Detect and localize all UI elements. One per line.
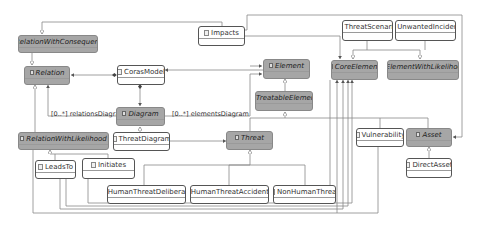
class-icon bbox=[406, 162, 410, 168]
class-name: UnwantedIncident bbox=[397, 23, 456, 31]
class-icon bbox=[113, 136, 117, 142]
elements-diagram-label: [0..*] elementsDiagram bbox=[172, 110, 249, 118]
class-name: ThreatScenario bbox=[344, 23, 393, 31]
class-name: CorasModel bbox=[124, 68, 165, 76]
class-name: RelationWithConsequence bbox=[18, 38, 98, 46]
class-name: RelationWithLikelihood bbox=[26, 135, 106, 143]
class-threat[interactable]: Threat bbox=[226, 131, 273, 150]
class-name: Threat bbox=[241, 134, 264, 142]
class-leads-to[interactable]: LeadsTo bbox=[35, 160, 76, 179]
class-name: ElementWithLikelihood bbox=[387, 63, 459, 71]
class-relation-with-likelihood[interactable]: RelationWithLikelihood bbox=[18, 132, 109, 150]
class-name: NonHumanThreat bbox=[277, 188, 336, 196]
class-icon bbox=[38, 164, 43, 170]
class-relation[interactable]: Relation bbox=[24, 66, 70, 85]
class-name: Vulnerability bbox=[362, 131, 404, 139]
class-name: HumanThreatDeliberate bbox=[108, 188, 186, 196]
class-icon bbox=[204, 30, 209, 36]
class-non-human-threat[interactable]: NonHumanThreat bbox=[273, 185, 336, 204]
class-icon bbox=[273, 189, 275, 195]
class-diagram-canvas: [0..*] relationsDiagram [0..*] elementsD… bbox=[0, 0, 478, 227]
class-name: CoreElement bbox=[335, 63, 378, 71]
abstract-class-icon bbox=[235, 135, 239, 140]
class-core-element[interactable]: CoreElement bbox=[331, 60, 378, 80]
class-name: Element bbox=[275, 62, 304, 70]
abstract-class-icon bbox=[122, 111, 126, 116]
class-name: LeadsTo bbox=[45, 163, 73, 171]
relations-diagram-label: [0..*] relationsDiagram bbox=[51, 110, 126, 118]
class-threat-scenario[interactable]: ThreatScenario bbox=[342, 20, 393, 41]
abstract-class-icon bbox=[269, 63, 273, 68]
class-human-threat-deliberate[interactable]: HumanThreatDeliberate bbox=[107, 185, 186, 204]
abstract-class-icon bbox=[30, 70, 34, 75]
class-threat-diagram[interactable]: ThreatDiagram bbox=[113, 132, 170, 151]
class-treatable-element[interactable]: TreatableElement bbox=[255, 91, 313, 111]
class-direct-asset[interactable]: DirectAsset bbox=[406, 158, 452, 178]
class-asset[interactable]: Asset bbox=[406, 128, 452, 147]
class-coras-model[interactable]: CorasModel bbox=[117, 65, 165, 85]
abstract-class-icon bbox=[20, 136, 24, 141]
class-diagram[interactable]: Diagram bbox=[116, 107, 165, 126]
class-name: Impacts bbox=[211, 29, 239, 37]
class-icon bbox=[356, 132, 360, 138]
class-vulnerability[interactable]: Vulnerability bbox=[356, 128, 404, 147]
class-name: Asset bbox=[422, 131, 441, 139]
class-icon bbox=[117, 69, 122, 75]
class-element[interactable]: Element bbox=[263, 59, 310, 79]
class-name: Initiates bbox=[98, 161, 126, 169]
class-impacts[interactable]: Impacts bbox=[198, 26, 245, 46]
class-human-threat-accidental[interactable]: HumanThreatAccidental bbox=[190, 185, 269, 204]
class-element-with-likelihood[interactable]: ElementWithLikelihood bbox=[387, 60, 459, 80]
class-name: DirectAsset bbox=[412, 161, 452, 169]
class-name: HumanThreatAccidental bbox=[191, 188, 269, 196]
class-initiates[interactable]: Initiates bbox=[82, 158, 135, 179]
abstract-class-icon bbox=[416, 132, 420, 137]
class-icon bbox=[91, 162, 96, 168]
class-name: ThreatDiagram bbox=[119, 135, 170, 143]
class-name: Relation bbox=[36, 69, 65, 77]
class-name: Diagram bbox=[128, 110, 158, 118]
abstract-class-icon bbox=[331, 64, 333, 69]
class-name: TreatableElement bbox=[256, 94, 313, 102]
class-unwanted-incident[interactable]: UnwantedIncident bbox=[395, 20, 456, 41]
class-relation-with-consequence[interactable]: RelationWithConsequence bbox=[18, 35, 98, 53]
